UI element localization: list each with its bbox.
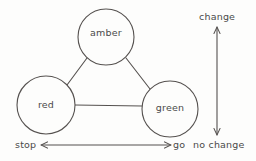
diagram-canvas: amber red green change no change stop go	[0, 0, 256, 161]
axis-label-no-change: no change	[193, 139, 245, 150]
node-label-green: green	[142, 102, 198, 113]
node-label-amber: amber	[78, 27, 134, 38]
axis-label-stop: stop	[15, 139, 36, 150]
edge-amber-red	[67, 58, 87, 85]
node-label-red: red	[18, 99, 74, 110]
axis-label-go: go	[173, 139, 185, 150]
edge-red-green	[75, 105, 142, 106]
edge-amber-green	[126, 58, 150, 89]
axis-label-change: change	[199, 11, 235, 22]
diagram-graphics	[0, 0, 256, 161]
